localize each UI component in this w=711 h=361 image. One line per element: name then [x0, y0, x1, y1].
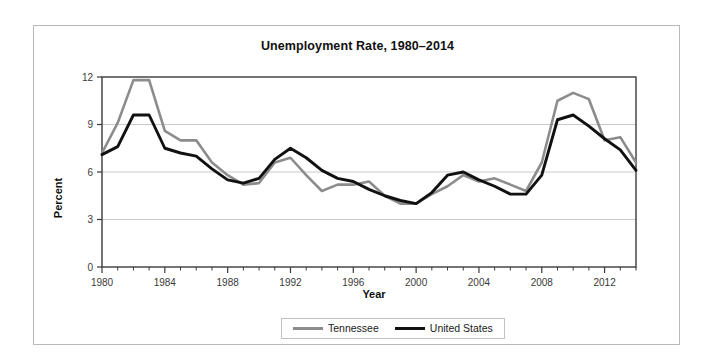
x-tick-label: 1980	[91, 277, 114, 288]
y-tick-label: 12	[82, 72, 94, 83]
figure-panel: Unemployment Rate, 1980–2014 036912 1980…	[33, 25, 680, 345]
x-axis-title: Year	[362, 288, 386, 300]
x-tick-label: 2000	[405, 277, 428, 288]
y-axis-title: Percent	[52, 177, 64, 218]
gridlines	[102, 125, 636, 220]
series-line-united-states	[102, 115, 636, 204]
data-series	[102, 80, 636, 204]
y-axis-tick-labels: 036912	[82, 72, 94, 273]
x-tick-label: 1992	[279, 277, 302, 288]
legend-label-united-states: United States	[430, 322, 493, 334]
x-tick-label: 2004	[468, 277, 491, 288]
legend-item-tennessee: Tennessee	[293, 322, 379, 334]
x-tick-label: 2008	[531, 277, 554, 288]
chart-legend: Tennessee United States	[281, 318, 505, 339]
y-tick-label: 6	[87, 167, 93, 178]
line-chart-svg: 036912 198019841988199219962000200420082…	[34, 26, 681, 346]
x-axis-tick-labels: 198019841988199219962000200420082012	[91, 277, 616, 288]
series-line-tennessee	[102, 80, 636, 204]
y-tick-label: 0	[87, 262, 93, 273]
legend-label-tennessee: Tennessee	[328, 322, 379, 334]
plot-area: 036912 198019841988199219962000200420082…	[34, 26, 681, 346]
legend-swatch-tennessee	[293, 327, 323, 330]
y-tick-label: 9	[87, 119, 93, 130]
x-tick-label: 2012	[593, 277, 616, 288]
x-tick-label: 1996	[342, 277, 365, 288]
x-tick-label: 1984	[154, 277, 177, 288]
x-tick-label: 1988	[217, 277, 240, 288]
legend-item-united-states: United States	[395, 322, 493, 334]
y-tick-label: 3	[87, 214, 93, 225]
legend-swatch-united-states	[395, 327, 425, 330]
